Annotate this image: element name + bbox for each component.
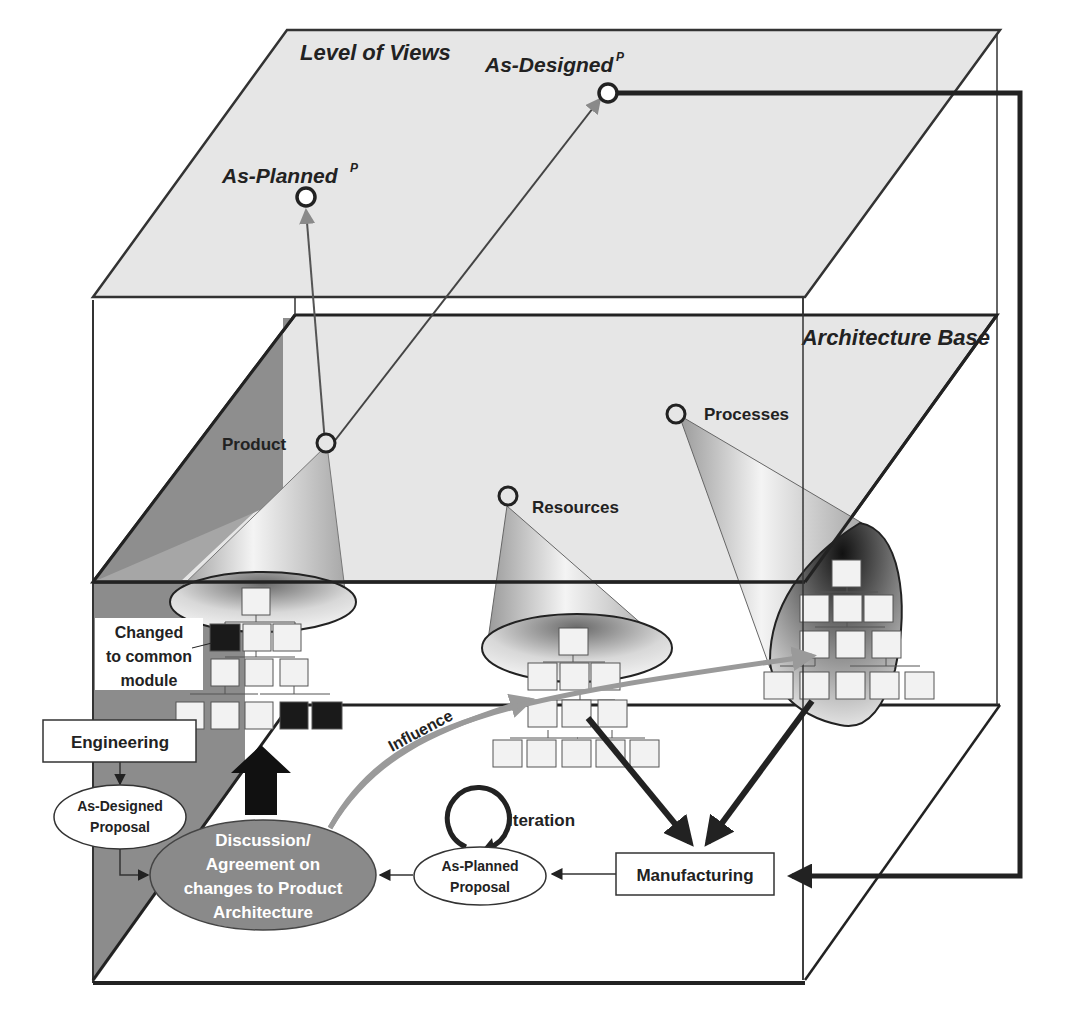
as-designed-sup: P <box>616 50 625 64</box>
as-planned-proposal[interactable]: As-Planned Proposal <box>414 847 546 905</box>
tree-node <box>493 740 522 767</box>
callout-line-3: module <box>121 672 178 689</box>
changed-module-node <box>312 702 342 729</box>
processes-node-icon[interactable] <box>667 405 685 423</box>
product-label: Product <box>222 435 287 454</box>
manufacturing-box[interactable]: Manufacturing <box>616 853 774 895</box>
callout-line-2: to common <box>106 648 192 665</box>
processes-to-manufacturing-arrow <box>708 701 812 842</box>
as-planned-sup: P <box>350 161 359 175</box>
as-planned-node-icon[interactable] <box>297 188 315 206</box>
manufacturing-label: Manufacturing <box>636 866 753 885</box>
product-node-icon[interactable] <box>317 434 335 452</box>
tree-node <box>864 595 893 622</box>
tree-node <box>527 740 556 767</box>
tree-node <box>630 740 659 767</box>
tree-node <box>836 631 865 658</box>
tree-node <box>559 628 588 655</box>
as-planned-proposal-ellipse[interactable] <box>414 847 546 905</box>
changed-module-node <box>280 702 308 729</box>
tree-node <box>528 663 557 690</box>
tree-node <box>273 624 301 651</box>
discussion-line-4: Architecture <box>213 903 313 922</box>
level-of-views-title: Level of Views <box>300 40 451 65</box>
tree-node <box>832 560 861 587</box>
iteration-label: Iteration <box>508 811 575 830</box>
tree-node <box>243 624 271 651</box>
tree-node <box>833 595 862 622</box>
tree-node <box>800 631 829 658</box>
tree-node <box>872 631 901 658</box>
discussion-agreement[interactable]: Discussion/ Agreement on changes to Prod… <box>150 820 376 930</box>
tree-node <box>870 672 899 699</box>
as-designed-proposal-line-1: As-Designed <box>77 798 163 814</box>
as-planned-label: As-Planned <box>221 164 339 187</box>
changed-module-node <box>210 624 240 651</box>
architecture-base-title: Architecture Base <box>801 325 990 350</box>
tree-node <box>211 659 239 686</box>
discussion-line-2: Agreement on <box>206 855 320 874</box>
resources-to-manufacturing-arrow <box>588 718 690 842</box>
tree-node <box>245 702 273 729</box>
callout-line-1: Changed <box>115 624 183 641</box>
tree-node <box>560 663 589 690</box>
tree-node <box>245 659 273 686</box>
discussion-line-3: changes to Product <box>184 879 343 898</box>
as-designed-proposal-ellipse[interactable] <box>54 785 186 849</box>
tree-node <box>211 702 239 729</box>
engineering-box[interactable]: Engineering <box>43 720 196 762</box>
iteration-cycle-icon <box>447 788 509 848</box>
tree-node <box>905 672 934 699</box>
tree-node <box>562 740 591 767</box>
resources-label: Resources <box>532 498 619 517</box>
as-planned-proposal-line-1: As-Planned <box>441 858 518 874</box>
as-designed-label: As-Designed <box>484 53 615 76</box>
resources-node-icon[interactable] <box>499 487 517 505</box>
tree-node <box>280 659 308 686</box>
as-planned-proposal-line-2: Proposal <box>450 879 510 895</box>
tree-node <box>800 672 829 699</box>
changed-module-callout: Changed to common module <box>95 618 212 690</box>
frame-bottom-diagonal-right <box>805 705 1000 980</box>
tree-node <box>562 700 591 727</box>
tree-node <box>800 595 829 622</box>
discussion-line-1: Discussion/ <box>215 831 311 850</box>
engineering-label: Engineering <box>71 733 169 752</box>
tree-node <box>242 588 270 615</box>
tree-node <box>836 672 865 699</box>
tree-node <box>598 700 627 727</box>
tree-node <box>764 672 793 699</box>
as-designed-proposal-line-2: Proposal <box>90 819 150 835</box>
architecture-diagram: Architecture Base Level of Views <box>0 0 1077 1028</box>
as-designed-proposal[interactable]: As-Designed Proposal <box>54 785 186 849</box>
processes-label: Processes <box>704 405 789 424</box>
as-designed-node-icon[interactable] <box>599 84 617 102</box>
